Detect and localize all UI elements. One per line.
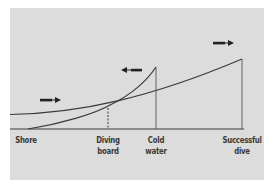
approach-gradient-curve <box>10 59 242 115</box>
avoidance-gradient-curve <box>28 67 156 129</box>
label-shore: Shore <box>10 135 43 146</box>
label-cold-water: Cold water <box>140 135 173 157</box>
arrow-right-icon <box>40 97 61 103</box>
arrow-left-icon <box>121 67 142 73</box>
label-successful-dive: Successful dive <box>219 135 265 157</box>
arrow-right-icon <box>213 40 234 46</box>
approach-avoidance-diagram <box>0 0 272 188</box>
label-diving-board: Diving board <box>92 135 125 157</box>
